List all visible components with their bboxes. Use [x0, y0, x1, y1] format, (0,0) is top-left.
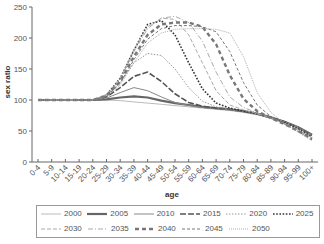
legend-item-2015: 2015: [180, 209, 226, 218]
y-tick-label: 100: [14, 96, 28, 105]
series-line-2050: [38, 29, 312, 141]
legend-label: 2005: [110, 209, 128, 218]
legend-item-2050: 2050: [229, 224, 276, 233]
legend-swatch-icon: [41, 226, 61, 232]
legend-item-2020: 2020: [226, 209, 272, 218]
legend-swatch-icon: [41, 211, 61, 217]
legend-label: 2025: [296, 209, 314, 218]
legend-label: 2040: [158, 224, 176, 233]
legend-swatch-icon: [229, 226, 249, 232]
chart-legend: 200020052010201520202025 203020352040204…: [36, 205, 320, 238]
x-tick-label: 100+: [297, 163, 316, 182]
x-tick-label: 0-4: [28, 163, 43, 178]
legend-swatch-icon: [134, 211, 154, 217]
legend-swatch-icon: [87, 211, 107, 217]
legend-item-2010: 2010: [134, 209, 180, 218]
y-tick-label: 150: [14, 65, 28, 74]
legend-swatch-icon: [135, 226, 155, 232]
y-tick-label: 0: [23, 158, 28, 167]
legend-row: 20302035204020452050: [37, 221, 319, 236]
y-axis-title: sex ratio: [3, 65, 12, 98]
y-tick-label: 200: [14, 34, 28, 43]
legend-label: 2015: [203, 209, 221, 218]
sex-ratio-line-chart: 050100150200250 0-45-910-1415-1920-2425-…: [0, 0, 324, 200]
legend-label: 2050: [252, 224, 270, 233]
legend-item-2040: 2040: [135, 224, 182, 233]
legend-swatch-icon: [180, 211, 200, 217]
series-lines: [38, 16, 312, 141]
series-line-2020: [38, 54, 312, 137]
series-line-2040: [38, 23, 312, 140]
legend-label: 2020: [249, 209, 267, 218]
legend-item-2025: 2025: [273, 209, 319, 218]
legend-label: 2035: [111, 224, 129, 233]
series-line-2035: [38, 16, 312, 138]
legend-swatch-icon: [182, 226, 202, 232]
legend-row: 200020052010201520202025: [37, 206, 319, 221]
legend-item-2030: 2030: [41, 224, 88, 233]
legend-label: 2010: [157, 209, 175, 218]
legend-item-2005: 2005: [87, 209, 133, 218]
legend-label: 2000: [64, 209, 82, 218]
y-tick-label: 250: [14, 3, 28, 12]
legend-swatch-icon: [226, 211, 246, 217]
x-axis-title: age: [165, 190, 179, 199]
x-axis: 0-45-910-1415-1920-2425-2930-3435-3940-4…: [28, 159, 318, 184]
legend-label: 2030: [64, 224, 82, 233]
legend-item-2035: 2035: [88, 224, 135, 233]
series-line-2045: [38, 26, 312, 140]
y-tick-label: 50: [18, 127, 27, 136]
legend-item-2045: 2045: [182, 224, 229, 233]
legend-item-2000: 2000: [41, 209, 87, 218]
legend-swatch-icon: [273, 211, 293, 217]
legend-swatch-icon: [88, 226, 108, 232]
series-line-2025: [38, 21, 312, 138]
y-axis: 050100150200250: [14, 3, 32, 167]
legend-label: 2045: [205, 224, 223, 233]
